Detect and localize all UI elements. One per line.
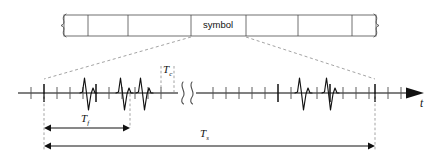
measure-drop-lines <box>44 94 375 150</box>
symbol-time-label: Ts <box>200 127 209 142</box>
symbol-time-subscript: s <box>206 134 209 142</box>
frame-time-arrow-left <box>44 125 51 132</box>
frame-time-label: Tf <box>81 112 89 127</box>
waveform-break-icon <box>178 82 196 104</box>
chip-time-subscript: c <box>169 70 172 78</box>
time-axis-group <box>18 88 424 99</box>
frame-time-arrow-right <box>123 125 130 132</box>
symbol-time-arrow-right <box>368 143 375 150</box>
connector-right <box>246 37 375 79</box>
chip-time-label: Tc <box>163 63 172 78</box>
symbol-time-arrow-left <box>44 143 51 150</box>
time-axis-label: t <box>420 97 423 109</box>
symbol-time-measure <box>44 143 375 150</box>
diagram-canvas: symbol Tc Tf Ts t <box>0 0 440 157</box>
symbol-cell-label: symbol <box>203 19 233 30</box>
expansion-connectors <box>44 37 375 79</box>
frame-time-subscript: f <box>87 119 89 127</box>
